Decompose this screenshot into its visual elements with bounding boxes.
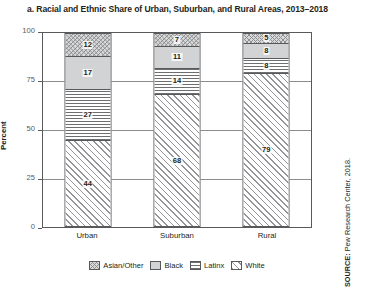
plot-area: 12 17 27 44 7 (42, 32, 312, 228)
value-label: 44 (82, 180, 92, 188)
legend-label: Asian/Other (103, 261, 143, 270)
source-text: Pew Research Center, 2018. (343, 158, 352, 253)
value-label: 79 (261, 146, 271, 154)
segment-rural-latinx[interactable]: 8 (244, 59, 289, 74)
segment-rural-black[interactable]: 8 (244, 44, 289, 59)
segment-urban-black[interactable]: 17 (65, 57, 110, 90)
legend: Asian/Other Black Latinx White (42, 258, 312, 272)
y-tick-label: 75 (5, 75, 35, 84)
solid-gray-swatch-icon (150, 261, 161, 270)
stacked-bar-rural[interactable]: 5 8 8 79 (243, 33, 290, 227)
stacked-bar-urban[interactable]: 12 17 27 44 (64, 33, 111, 227)
y-tick-label: 0 (5, 222, 35, 231)
x-tick-label-suburban: Suburban (132, 231, 222, 243)
legend-item-black[interactable]: Black (150, 261, 183, 270)
value-label: 27 (82, 111, 92, 119)
source-prefix: SOURCE: (343, 253, 352, 287)
segment-rural-white[interactable]: 79 (244, 74, 289, 226)
legend-item-asian-other[interactable]: Asian/Other (89, 261, 143, 270)
value-label: 8 (263, 47, 269, 55)
y-axis: 100 75 50 25 0 Percent (0, 32, 42, 228)
y-tick-label: 25 (5, 173, 35, 182)
cross-hatch-swatch-icon (89, 261, 100, 270)
value-label: 12 (82, 41, 92, 49)
segment-suburban-latinx[interactable]: 14 (154, 69, 199, 96)
x-tick-label-rural: Rural (222, 231, 312, 243)
segment-suburban-white[interactable]: 68 (154, 95, 199, 226)
value-label: 8 (263, 62, 269, 70)
y-axis-title: Percent (0, 121, 8, 150)
legend-item-white[interactable]: White (231, 261, 264, 270)
legend-label: Latinx (204, 261, 224, 270)
segment-suburban-black[interactable]: 11 (154, 47, 199, 68)
value-label: 7 (174, 36, 180, 44)
value-label: 5 (263, 34, 269, 42)
segment-urban-latinx[interactable]: 27 (65, 90, 110, 142)
horizontal-lines-swatch-icon (190, 261, 201, 270)
stacked-bar-suburban[interactable]: 7 11 14 68 (153, 33, 200, 227)
y-tick-mark (38, 228, 42, 229)
legend-label: Black (164, 261, 183, 270)
source-note: SOURCE: Pew Research Center, 2018. (343, 158, 352, 287)
segment-rural-asian-other[interactable]: 5 (244, 34, 289, 44)
x-tick-label-urban: Urban (42, 231, 132, 243)
bar-slot-urban: 12 17 27 44 (43, 33, 132, 227)
segment-urban-white[interactable]: 44 (65, 141, 110, 225)
segment-urban-asian-other[interactable]: 12 (65, 34, 110, 57)
segment-suburban-asian-other[interactable]: 7 (154, 34, 199, 47)
legend-label: White (245, 261, 264, 270)
bar-slot-rural: 5 8 8 79 (222, 33, 311, 227)
y-tick-label: 100 (5, 26, 35, 35)
value-label: 14 (172, 77, 182, 85)
value-label: 17 (82, 69, 92, 77)
y-tick-label: 50 (5, 124, 35, 133)
x-axis: Urban Suburban Rural (42, 231, 312, 243)
bar-slot-suburban: 7 11 14 68 (132, 33, 221, 227)
diagonal-hatch-swatch-icon (231, 261, 242, 270)
legend-item-latinx[interactable]: Latinx (190, 261, 224, 270)
value-label: 68 (172, 157, 182, 165)
value-label: 11 (172, 53, 182, 61)
chart-title: a. Racial and Ethnic Share of Urban, Sub… (0, 4, 355, 15)
